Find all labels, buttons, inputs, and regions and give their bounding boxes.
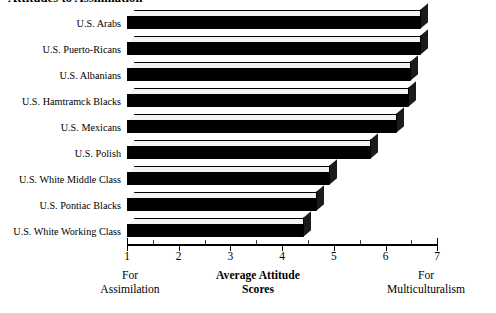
bar-end-cap	[408, 81, 416, 107]
x-tick-minor	[411, 240, 412, 244]
x-tick-label: 6	[375, 250, 397, 263]
x-axis-title-line1: Average Attitude	[216, 269, 300, 282]
annotation-right-line1: For	[418, 269, 434, 282]
category-label: U.S. Polish	[0, 148, 121, 159]
x-tick-minor	[256, 240, 257, 244]
chart-container: Attitudes to Assimilation U.S. Arabs U.S…	[0, 0, 496, 313]
category-label: U.S. Albanians	[0, 70, 121, 81]
bar-front-face	[127, 172, 329, 185]
category-label: U.S. Mexicans	[0, 122, 121, 133]
bar-front-face	[127, 120, 396, 133]
x-tick-label: 2	[168, 250, 190, 263]
bar-end-cap	[420, 29, 428, 55]
bar-end-cap	[370, 133, 378, 159]
x-tick-label: 5	[323, 250, 345, 263]
x-tick-minor	[308, 240, 309, 244]
category-axis: U.S. Arabs U.S. Puerto-Ricans U.S. Alban…	[0, 8, 121, 244]
annotation-left-line1: For	[122, 269, 138, 282]
bar-end-cap	[303, 211, 311, 237]
bar-front-face	[127, 42, 420, 55]
category-label: U.S. White Middle Class	[0, 174, 121, 185]
bar-front-face	[127, 68, 410, 81]
x-tick-label: 1	[116, 250, 138, 263]
category-label: U.S. Arabs	[0, 18, 121, 29]
category-label: U.S. Puerto-Ricans	[0, 44, 121, 55]
annotation-left-line2: Assimilation	[70, 283, 190, 297]
x-tick-minor	[153, 240, 154, 244]
bar-front-face	[127, 94, 408, 107]
bar-end-cap	[316, 185, 324, 211]
x-axis-title: Average Attitude Scores	[188, 269, 328, 297]
category-label: U.S. Pontiac Blacks	[0, 200, 121, 211]
annotation-right: For Multiculturalism	[356, 269, 496, 297]
bar-front-face	[127, 198, 316, 211]
chart-title: Attitudes to Assimilation	[8, 0, 308, 5]
x-axis-title-line2: Scores	[188, 283, 328, 297]
category-label: U.S. Hamtramck Blacks	[0, 96, 121, 107]
bar-front-face	[127, 146, 370, 159]
x-tick-label: 4	[271, 250, 293, 263]
bar-end-cap	[396, 107, 404, 133]
x-tick-label: 3	[219, 250, 241, 263]
category-label: U.S. White Working Class	[0, 226, 121, 237]
x-tick-minor	[360, 240, 361, 244]
plot-area	[127, 8, 496, 244]
annotation-left: For Assimilation	[70, 269, 190, 297]
x-tick-minor	[205, 240, 206, 244]
bar-end-cap	[410, 55, 418, 81]
bar-front-face	[127, 16, 420, 29]
x-tick-label: 7	[426, 250, 448, 263]
bar-end-cap	[420, 3, 428, 29]
annotation-right-line2: Multiculturalism	[356, 283, 496, 297]
bar-front-face	[127, 224, 303, 237]
bar-end-cap	[329, 159, 337, 185]
